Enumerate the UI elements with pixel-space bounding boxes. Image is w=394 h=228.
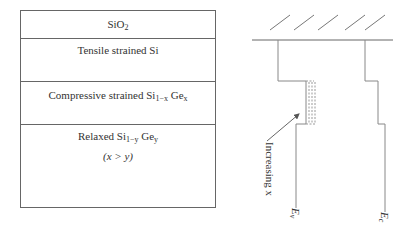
- increasing-x-arrow: [267, 114, 299, 141]
- conduction-band-label: Ec: [379, 212, 391, 222]
- band-diagram: [0, 0, 394, 228]
- valence-band-edge: [278, 40, 306, 208]
- surface-hatching: [270, 15, 385, 30]
- conduction-band-edge: [365, 40, 385, 212]
- increasing-x-label: Increasing x: [264, 142, 276, 196]
- valence-band-label: Ev: [290, 208, 302, 218]
- increasing-x-dashes: [306, 81, 315, 124]
